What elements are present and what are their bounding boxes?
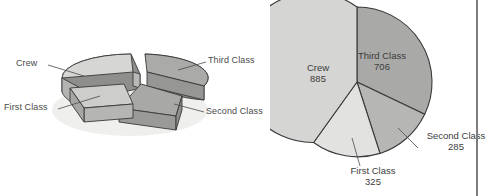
label-second-class-left: Second Class: [206, 106, 263, 116]
label-crew-left: Crew: [16, 58, 37, 68]
left-3d-pie-chart: [0, 0, 270, 196]
pie-label-first-class-name: First Class: [351, 165, 396, 176]
pie-label-second-class-value: 285: [419, 141, 493, 152]
figure-canvas: Crew First Class Third Class Second Clas…: [0, 0, 494, 196]
pie-label-first-class: First Class 325: [337, 165, 409, 187]
pie-label-crew-value: 885: [290, 73, 346, 84]
pie-label-first-class-value: 325: [337, 176, 409, 187]
label-first-class-left: First Class: [4, 102, 48, 112]
pie-label-second-class: Second Class 285: [419, 130, 493, 152]
label-third-class-left: Third Class: [208, 55, 255, 65]
pie-label-third-class-name: Third Class: [358, 50, 406, 61]
pie-label-crew: Crew 885: [290, 62, 346, 84]
pie-label-third-class: Third Class 706: [345, 50, 419, 72]
page-rule: [476, 0, 478, 196]
pie-label-third-class-value: 706: [345, 61, 419, 72]
pie-label-crew-name: Crew: [307, 62, 329, 73]
